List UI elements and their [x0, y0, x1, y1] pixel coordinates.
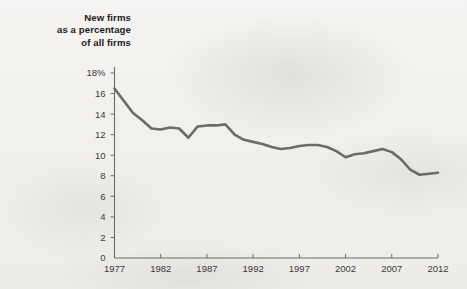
y-tick-label: 14 [95, 109, 106, 120]
x-tick-label: 2012 [427, 263, 448, 274]
chart-title-line-2: as a percentage [18, 24, 131, 36]
x-tick-label: 1997 [289, 263, 310, 274]
data-series [115, 88, 439, 174]
series-path [115, 88, 439, 174]
x-tick-label: 1977 [104, 263, 125, 274]
y-tick-label: 0 [100, 252, 105, 263]
x-axis: 19771982198719921997200220072012 [104, 254, 449, 274]
y-tick-label: 8 [100, 170, 105, 181]
x-tick-label: 2002 [335, 263, 356, 274]
chart-title-line-1: New firms [18, 12, 131, 24]
y-tick-label: 10 [95, 150, 106, 161]
line-chart: New firms as a percentage of all firms 0… [0, 0, 467, 289]
chart-title-line-3: of all firms [18, 37, 131, 49]
y-tick-label: 16 [95, 88, 106, 99]
x-tick-label: 1982 [150, 263, 171, 274]
y-tick-label: 2 [100, 232, 105, 243]
x-tick-label: 1987 [196, 263, 217, 274]
chart-title: New firms as a percentage of all firms [18, 12, 131, 49]
x-tick-label: 1992 [243, 263, 264, 274]
y-tick-label: 6 [100, 191, 105, 202]
y-axis: 024681012141618% [86, 67, 114, 263]
x-tick-label: 2007 [381, 263, 402, 274]
y-tick-label: 18% [86, 67, 106, 78]
y-tick-label: 12 [95, 129, 106, 140]
y-tick-label: 4 [100, 211, 105, 222]
